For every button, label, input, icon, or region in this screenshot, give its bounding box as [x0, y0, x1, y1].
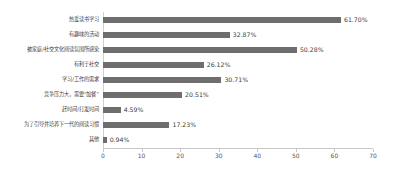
x-axis-tick-label: 0: [101, 153, 105, 159]
bar-row: 有利于社交26.12%: [103, 57, 373, 72]
bar-value-label: 30.71%: [224, 77, 248, 83]
x-axis-tick-label: 50: [292, 153, 300, 159]
bar-row: 竞争压力大，需要“加餐”20.51%: [103, 88, 373, 103]
x-axis-tick-label: 70: [369, 153, 377, 159]
bar-row: 有趣味的活动32.87%: [103, 27, 373, 42]
bar-value-label: 26.12%: [207, 62, 231, 68]
bar-value-label: 61.70%: [344, 16, 368, 22]
category-label: 有利于社交: [74, 62, 99, 67]
category-label: 学习/工作的需求: [62, 77, 99, 82]
bar: [103, 137, 107, 143]
bar: [103, 32, 230, 38]
bar-row: 被家庭/社交文化阅读氛围所感染50.28%: [103, 42, 373, 57]
x-axis-tick-label: 40: [253, 153, 261, 159]
bar-value-label: 17.23%: [172, 122, 196, 128]
bar-row: 其他0.94%: [103, 133, 373, 148]
bar: [103, 47, 297, 53]
category-label: 被家庭/社交文化阅读氛围所感染: [27, 47, 99, 52]
bar: [103, 92, 182, 98]
bar-row: 为了引导并培养下一代的阅读习惯17.23%: [103, 118, 373, 133]
bar-row: 热爱读书学习61.70%: [103, 12, 373, 27]
bar-value-label: 4.59%: [124, 107, 144, 113]
x-axis-tick-label: 10: [138, 153, 146, 159]
bar-value-label: 50.28%: [300, 47, 324, 53]
x-axis-tick-label: 30: [215, 153, 223, 159]
plot-area: 热爱读书学习61.70%有趣味的活动32.87%被家庭/社交文化阅读氛围所感染5…: [103, 12, 373, 148]
bar: [103, 122, 169, 128]
bar: [103, 62, 204, 68]
category-label: 热爱读书学习: [69, 17, 99, 22]
category-label: 其他: [89, 138, 99, 143]
category-axis-line: [103, 148, 373, 149]
bar: [103, 77, 221, 83]
bar-value-label: 20.51%: [185, 92, 209, 98]
category-label: 赶时间/打发时间: [62, 108, 99, 113]
x-axis-tick-label: 20: [176, 153, 184, 159]
category-label: 有趣味的活动: [69, 32, 99, 37]
bar-value-label: 32.87%: [233, 32, 257, 38]
x-axis-tick-label: 60: [331, 153, 339, 159]
category-label: 竞争压力大，需要“加餐”: [44, 92, 99, 97]
bar-row: 学习/工作的需求30.71%: [103, 72, 373, 87]
category-label: 为了引导并培养下一代的阅读习惯: [24, 123, 99, 128]
bar-row: 赶时间/打发时间4.59%: [103, 103, 373, 118]
bar: [103, 107, 121, 113]
bar-chart: 热爱读书学习61.70%有趣味的活动32.87%被家庭/社交文化阅读氛围所感染5…: [0, 0, 401, 180]
bar-value-label: 0.94%: [110, 137, 130, 143]
bar: [103, 17, 341, 23]
